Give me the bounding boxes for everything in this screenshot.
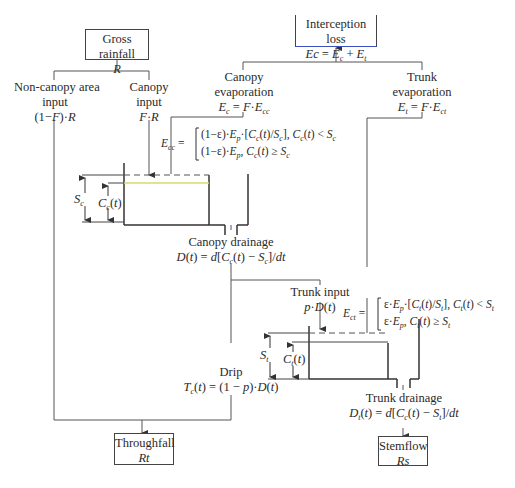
trunk-evaporation-formula: Et = F·Ect [386, 100, 458, 119]
throughfall-label: Throughfall [115, 436, 173, 451]
stemflow-label: Stemflow [379, 439, 427, 454]
canopy-drainage-formula: D(t) = d[Cc(t) − Sc]/dt [170, 250, 292, 269]
stemflow-symbol: Rs [397, 454, 410, 468]
interception-loss-label: Interception loss [296, 17, 376, 47]
gross-rainfall-box: Gross rainfall R [85, 29, 149, 60]
canopy-capacity-label: Sc [74, 192, 84, 211]
interception-loss-formula: Ec = Ec + Et [296, 47, 376, 66]
ecc-equation-lhs: Ecc = [161, 135, 185, 156]
non-canopy-input-node: Non-canopy area input (1−F)·R [14, 80, 96, 125]
trunk-input-node: Trunk input p·D(t) [290, 285, 350, 315]
canopy-evaporation-formula: Ec = F·Ecc [208, 100, 280, 119]
non-canopy-input-formula: (1−F)·R [14, 110, 96, 125]
trunk-evaporation-node: Trunk evaporation Et = F·Ect [386, 70, 458, 119]
drip-node: Drip Tc(t) = (1 − p)·D(t) [181, 365, 281, 399]
canopy-input-formula: F·R [124, 110, 174, 125]
trunk-content-label: Ct(t) [283, 352, 305, 371]
interception-loss-box: Interception loss Ec = Ec + Et [295, 15, 377, 47]
gross-rainfall-symbol: R [113, 62, 121, 76]
canopy-input-node: Canopy input F·R [124, 80, 174, 125]
trunk-drainage-node: Trunk drainage Dt(t) = d[Cc(t) − St]/dt [348, 391, 460, 425]
canopy-drainage-node: Canopy drainage D(t) = d[Cc(t) − Sc]/dt [170, 235, 292, 269]
ect-equation-case2: ε·Ep, Ct(t) ≥ St [384, 313, 450, 334]
canopy-content-label: Cc(t) [98, 196, 122, 215]
trunk-drainage-formula: Dt(t) = d[Cc(t) − St]/dt [348, 406, 460, 425]
canopy-evaporation-node: Canopy evaporation Ec = F·Ecc [208, 70, 280, 119]
trunk-input-formula: p·D(t) [290, 300, 350, 315]
drip-formula: Tc(t) = (1 − p)·D(t) [181, 380, 281, 399]
gross-rainfall-label: Gross rainfall [86, 32, 148, 62]
ecc-equation-case2: (1−ε)·Ep, Cc(t) ≥ Sc [201, 143, 290, 164]
stemflow-box: Stemflow Rs [378, 436, 428, 466]
throughfall-symbol: Rt [138, 451, 149, 465]
throughfall-box: Throughfall Rt [114, 433, 174, 465]
